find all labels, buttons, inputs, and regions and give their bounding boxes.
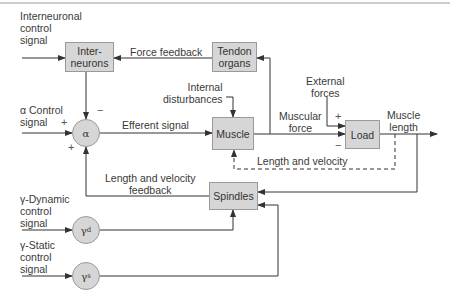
interneuronal-control-label: Interneuronal control signal <box>20 10 82 46</box>
alpha-bottom-plus-sign: + <box>68 141 74 153</box>
spindles-block: Spindles <box>209 182 258 210</box>
alpha-symbol: α <box>83 128 90 139</box>
force-feedback-label: Force feedback <box>130 46 202 58</box>
gamma-dynamic-label: γ-Dynamic control signal <box>20 193 70 229</box>
length-velocity-label: Length and velocity <box>257 155 347 167</box>
gamma-s-to-spindles-arrow <box>100 205 278 276</box>
internal-disturbance-arrow <box>226 97 233 117</box>
alpha-top-minus-sign: − <box>97 104 103 116</box>
muscular-force-label: Muscular force <box>279 110 322 134</box>
alpha-left-plus-sign: + <box>61 116 67 128</box>
length-velocity-feedback-label: Length and velocity feedback <box>105 172 195 196</box>
alpha-motor-neuron-node: α <box>72 119 100 147</box>
load-bottom-minus-sign: − <box>335 139 341 151</box>
muscle-block: Muscle <box>212 117 254 150</box>
efferent-signal-label: Efferent signal <box>122 119 189 131</box>
gamma-d-subscript: d <box>87 226 91 234</box>
load-top-plus-sign: + <box>335 110 341 122</box>
external-forces-label: External forces <box>306 75 345 99</box>
force-to-tendon-arrow <box>257 58 270 134</box>
interneurons-block: Inter- neurons <box>65 42 114 72</box>
gamma-s-subscript: s <box>87 272 91 280</box>
gamma-d-to-spindles-arrow <box>100 210 233 230</box>
internal-disturbances-label: Internal disturbances <box>163 81 223 105</box>
muscle-length-label: Muscle length <box>387 109 420 133</box>
load-block: Load <box>345 120 380 149</box>
gamma-static-node: γs <box>72 262 100 290</box>
gamma-dynamic-node: γd <box>72 216 100 244</box>
alpha-control-label: α Control signal <box>20 104 63 128</box>
gamma-static-label: γ-Static control signal <box>20 239 55 275</box>
tendon-organs-block: Tendon organs <box>212 42 257 72</box>
